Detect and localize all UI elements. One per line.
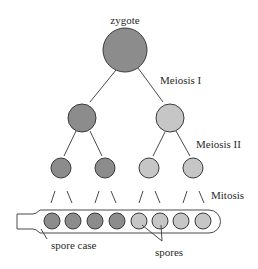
spores-group (44, 213, 211, 229)
spores-label: spores (155, 246, 183, 258)
spore (87, 213, 103, 229)
spore (173, 213, 189, 229)
mitosis-label: Mitosis (211, 189, 244, 201)
meiosis2-cell (139, 158, 159, 178)
zygote-cell (103, 28, 147, 72)
meiosis1-cell-light (156, 104, 184, 132)
meiosis2-cell (95, 158, 115, 178)
life-cycle-diagram: zygote Meiosis I Meiosis II Mitosis spor… (0, 0, 258, 269)
spore (44, 213, 60, 229)
meiosis2-cell (183, 158, 203, 178)
meiosis1-connectors (90, 68, 163, 102)
meiosis2-connectors (64, 131, 190, 156)
mitosis-connectors (51, 191, 204, 203)
zygote-label: zygote (110, 14, 139, 26)
meiosis1-cell-dark (68, 104, 96, 132)
meiosis2-cell (51, 158, 71, 178)
spore-case-pointer (41, 229, 47, 239)
spore (152, 213, 168, 229)
meiosis1-label: Meiosis I (160, 74, 202, 86)
spore (65, 213, 81, 229)
spore-case-label: spore case (51, 239, 97, 251)
spore (109, 213, 125, 229)
meiosis2-label: Meiosis II (196, 138, 241, 150)
spore (195, 213, 211, 229)
